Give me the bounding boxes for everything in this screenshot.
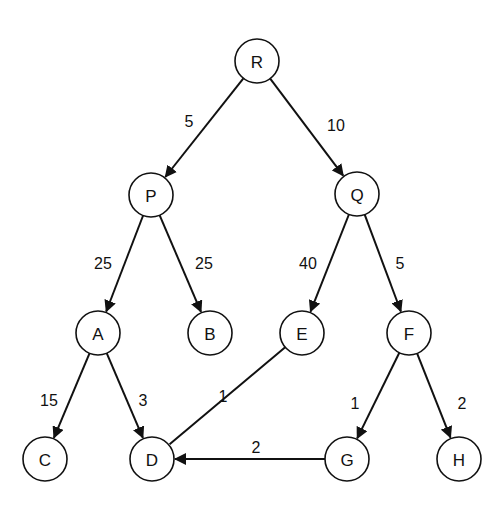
node-b: B [188, 311, 232, 355]
node-label: G [340, 451, 353, 470]
node-g: G [325, 437, 369, 481]
node-q: Q [335, 172, 379, 216]
edge-weight-g-d: 2 [252, 439, 261, 456]
node-p: P [129, 173, 173, 217]
node-label: H [453, 451, 465, 470]
node-f: F [387, 311, 431, 355]
edge-r-p [165, 78, 243, 177]
node-d: D [130, 437, 174, 481]
tree-diagram: 51025254051531122 RPQABEFCDGH [0, 0, 489, 511]
edge-a-d [107, 353, 143, 438]
node-label: F [404, 325, 414, 344]
node-label: C [39, 451, 51, 470]
node-c: C [23, 437, 67, 481]
edge-weight-p-a: 25 [94, 255, 112, 272]
node-label: B [204, 325, 215, 344]
edge-a-c [54, 353, 90, 438]
edge-weight-q-f: 5 [396, 255, 405, 272]
node-label: A [92, 325, 104, 344]
edge-weight-f-h: 2 [458, 395, 467, 412]
edge-f-g [357, 353, 399, 439]
edge-weight-r-q: 10 [327, 117, 345, 134]
edge-weight-f-g: 1 [351, 395, 360, 412]
edge-weight-r-p: 5 [185, 113, 194, 130]
node-e: E [280, 311, 324, 355]
node-a: A [76, 311, 120, 355]
edge-weight-p-b: 25 [195, 255, 213, 272]
edge-weight-q-e: 40 [299, 255, 317, 272]
node-label: Q [350, 186, 363, 205]
edge-weight-a-d: 3 [139, 392, 148, 409]
node-r: R [235, 39, 279, 83]
edge-weight-e-d: 1 [219, 388, 228, 405]
node-label: P [145, 187, 156, 206]
node-label: E [296, 325, 307, 344]
nodes-layer: RPQABEFCDGH [23, 39, 481, 481]
edge-weight-a-c: 15 [40, 392, 58, 409]
edge-labels-layer: 51025254051531122 [40, 113, 466, 456]
node-h: H [437, 437, 481, 481]
edge-f-h [417, 353, 450, 437]
edges-layer [54, 78, 451, 459]
node-label: R [251, 53, 263, 72]
node-label: D [146, 451, 158, 470]
